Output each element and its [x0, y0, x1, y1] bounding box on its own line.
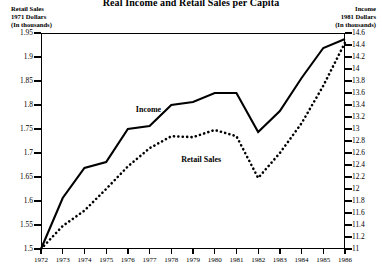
retail-sales-series-line [41, 43, 345, 249]
income-series-line [41, 39, 345, 249]
income-series-label: Income [136, 105, 161, 114]
chart-figure: Real Income and Retail Sales per Capita … [0, 0, 382, 270]
retail-sales-series-label: Retail Sales [181, 155, 221, 164]
series-layer [0, 0, 382, 270]
